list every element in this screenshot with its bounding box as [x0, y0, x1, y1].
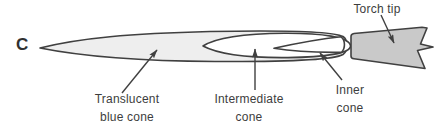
torch-tip-label: Torch tip [337, 0, 417, 18]
translucent-blue-cone-label: Translucent blue cone [57, 90, 197, 126]
translucent-label-line2: blue cone [57, 108, 197, 126]
torch-tip-shape [351, 27, 433, 68]
panel-letter: C [16, 35, 28, 55]
inner-label-line2: cone [320, 99, 380, 117]
inner-cone-label: Inner cone [320, 81, 380, 117]
intermediate-label-line1: Intermediate [189, 90, 309, 108]
flame-anatomy-figure: C Torch tip Translucent blue cone Interm… [0, 0, 448, 135]
intermediate-cone-label: Intermediate cone [189, 90, 309, 126]
intermediate-label-line2: cone [189, 108, 309, 126]
torch-tip-label-text: Torch tip [337, 0, 417, 18]
inner-label-line1: Inner [320, 81, 380, 99]
translucent-label-line1: Translucent [57, 90, 197, 108]
